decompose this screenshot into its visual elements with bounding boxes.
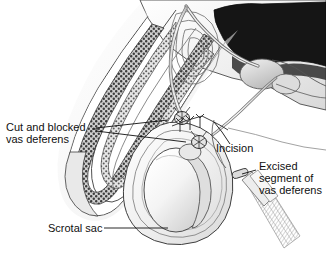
label-cut-line2: vas deferens [6, 133, 86, 145]
label-incision-line1: Incision [216, 142, 253, 154]
label-excised-line2: segment of [259, 172, 322, 184]
label-scrotal-sac: Scrotal sac [48, 222, 102, 234]
label-incision: Incision [216, 142, 253, 154]
label-cut-and-blocked: Cut and blocked vas deferens [6, 121, 86, 145]
label-excised-line3: vas deferens [259, 184, 322, 196]
label-excised-line1: Excised [259, 160, 322, 172]
label-scrotal-line1: Scrotal sac [48, 222, 102, 234]
label-excised-segment: Excised segment of vas deferens [259, 160, 322, 196]
illustration-canvas: Cut and blocked vas deferens Incision Ex… [0, 0, 326, 253]
label-cut-line1: Cut and blocked [6, 121, 86, 133]
